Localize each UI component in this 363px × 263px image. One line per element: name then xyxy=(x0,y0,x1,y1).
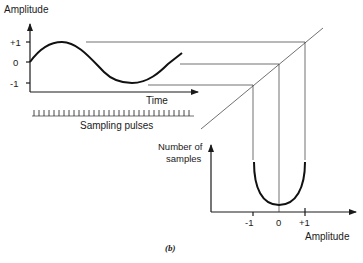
pulse-ticks xyxy=(34,110,189,116)
tick-label-zero: 0 xyxy=(13,57,18,68)
hist-x-tick-zero: 0 xyxy=(276,217,281,228)
sampling-pulses: Sampling pulses xyxy=(32,110,194,131)
u-shaped-distribution xyxy=(254,162,305,205)
histogram-x-label: Amplitude xyxy=(305,231,350,242)
amplitude-distribution-diagram: Amplitude +1 0 -1 Time xyxy=(0,0,363,263)
time-plot: Amplitude +1 0 -1 Time xyxy=(4,4,198,106)
figure-caption: (b) xyxy=(165,243,176,253)
time-plot-y-label: Amplitude xyxy=(4,4,49,15)
histogram-plot: Number of samples -1 0 +1 Amplitude xyxy=(158,141,356,242)
histogram-y-label-line2: samples xyxy=(166,153,202,164)
time-axis-label: Time xyxy=(146,95,168,106)
tick-label-plus1: +1 xyxy=(10,37,21,48)
hist-x-tick-minus1: -1 xyxy=(245,217,253,228)
sampling-pulses-label: Sampling pulses xyxy=(80,120,153,131)
tick-label-minus1: -1 xyxy=(10,78,18,89)
histogram-y-label-line1: Number of xyxy=(158,141,203,152)
sine-wave xyxy=(30,42,182,83)
hist-x-tick-plus1: +1 xyxy=(299,217,310,228)
